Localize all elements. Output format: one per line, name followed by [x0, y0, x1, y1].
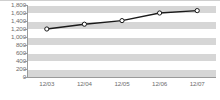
- y-tick-mark: [24, 69, 27, 70]
- plot-area: [28, 5, 216, 77]
- line-chart: 1,8001,6001,4001,2001,0008006004002000 1…: [0, 0, 220, 100]
- data-point-marker: [82, 22, 86, 26]
- y-tick-mark: [24, 13, 27, 14]
- x-tick-label: 12/03: [39, 80, 54, 87]
- y-tick-mark: [24, 37, 27, 38]
- y-tick-mark: [24, 29, 27, 30]
- data-point-marker: [158, 11, 162, 15]
- y-tick-mark: [24, 21, 27, 22]
- x-axis-tick-labels: 12/0312/0412/0512/0612/07: [28, 80, 216, 94]
- x-tick-label: 12/05: [115, 80, 130, 87]
- data-point-marker: [45, 27, 49, 31]
- y-tick-mark: [24, 61, 27, 62]
- x-tick-label: 12/07: [190, 80, 205, 87]
- y-tick-mark: [24, 77, 27, 78]
- y-tick-mark: [24, 5, 27, 6]
- x-axis-line: [27, 77, 216, 78]
- data-point-marker: [120, 19, 124, 23]
- y-axis-tick-labels: 1,8001,6001,4001,2001,0008006004002000: [0, 5, 26, 77]
- top-border-rule: [0, 0, 220, 1]
- x-tick-label: 12/06: [152, 80, 167, 87]
- y-axis-line: [27, 5, 28, 78]
- series-line-group: [28, 5, 216, 77]
- y-tick-mark: [24, 53, 27, 54]
- x-tick-label: 12/04: [77, 80, 92, 87]
- data-point-marker: [195, 9, 199, 13]
- y-tick-mark: [24, 45, 27, 46]
